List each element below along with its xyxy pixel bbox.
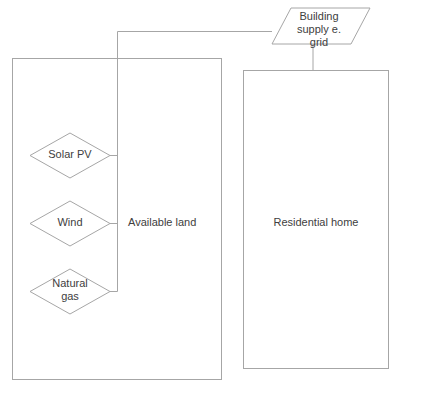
diagram-canvas: Solar PV Wind Natural gas Available land… — [0, 0, 442, 393]
diagram-svg — [0, 0, 442, 393]
building-supply-grid-parallelogram[interactable] — [272, 8, 370, 44]
residential-home-box[interactable] — [244, 71, 389, 369]
